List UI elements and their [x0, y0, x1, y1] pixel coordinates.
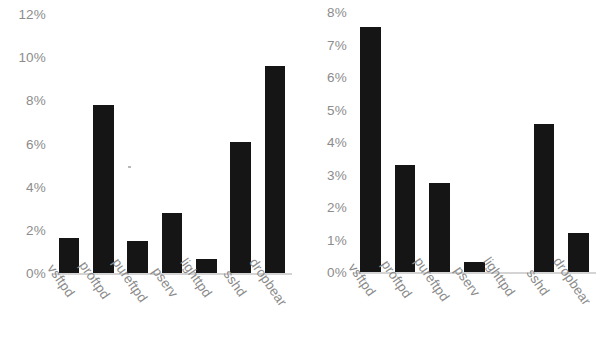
y-tick-label: 7% — [327, 37, 347, 52]
y-axis-right: 0%1%2%3%4%5%6%7%8% — [303, 0, 347, 349]
x-tick-slot: proftpd — [86, 277, 120, 349]
x-axis-left: vsftpdproftpdpureftpdpservlighttpdsshddr… — [52, 277, 292, 349]
x-tick-slot: pureftpd — [121, 277, 155, 349]
x-axis-right: vsftpdproftpdpureftpdpservlighttpdsshddr… — [353, 276, 596, 349]
scan-artifact-speck — [128, 166, 131, 168]
x-tick-slot: pureftpd — [422, 276, 457, 349]
bar — [534, 124, 555, 272]
y-axis-left: 0%2%4%6%8%10%12% — [0, 0, 46, 349]
bar — [265, 66, 286, 273]
x-tick-slot: sshd — [223, 277, 257, 349]
x-tick-slot: lighttpd — [492, 276, 527, 349]
bar-slot — [155, 14, 189, 273]
x-tick-slot: vsftpd — [52, 277, 86, 349]
x-tick-slot: sshd — [527, 276, 562, 349]
x-tick-slot: dropbear — [561, 276, 596, 349]
bar-slot — [353, 12, 388, 272]
y-tick-label: 8% — [327, 5, 347, 20]
bar-slot — [561, 12, 596, 272]
x-tick-slot: lighttpd — [189, 277, 223, 349]
bar-slot — [388, 12, 423, 272]
x-tick-slot: proftpd — [388, 276, 423, 349]
plot-area-left — [52, 14, 292, 275]
bar-chart-right: 0%1%2%3%4%5%6%7%8% vsftpdproftpdpureftpd… — [303, 0, 606, 349]
bar — [93, 105, 114, 273]
bar-slot — [527, 12, 562, 272]
bar-series-right — [353, 12, 596, 272]
bar-slot — [492, 12, 527, 272]
y-tick-label: 6% — [26, 136, 46, 151]
bar-series-left — [52, 14, 292, 273]
bar-slot — [258, 14, 292, 273]
bar-chart-left: 0%2%4%6%8%10%12% vsftpdproftpdpureftpdps… — [0, 0, 303, 349]
bar-slot — [52, 14, 86, 273]
y-tick-label: 0% — [327, 265, 347, 280]
bar — [395, 165, 416, 272]
bar-slot — [121, 14, 155, 273]
y-tick-label: 12% — [18, 7, 46, 22]
y-tick-label: 10% — [18, 50, 46, 65]
bar-slot — [86, 14, 120, 273]
y-tick-label: 8% — [26, 93, 46, 108]
bar — [360, 27, 381, 272]
x-tick-slot: pserv — [155, 277, 189, 349]
y-tick-label: 5% — [327, 102, 347, 117]
x-tick-slot: vsftpd — [353, 276, 388, 349]
bar-slot — [223, 14, 257, 273]
y-tick-label: 2% — [26, 222, 46, 237]
x-tick-slot: dropbear — [258, 277, 292, 349]
bar-slot — [457, 12, 492, 272]
bar — [230, 142, 251, 273]
y-tick-label: 1% — [327, 232, 347, 247]
bar-slot — [189, 14, 223, 273]
y-tick-label: 2% — [327, 200, 347, 215]
figure-two-bar-charts: 0%2%4%6%8%10%12% vsftpdproftpdpureftpdps… — [0, 0, 606, 349]
y-tick-label: 3% — [327, 167, 347, 182]
y-tick-label: 6% — [327, 70, 347, 85]
bar-slot — [422, 12, 457, 272]
bar — [429, 183, 450, 272]
plot-area-right — [353, 12, 596, 274]
y-tick-label: 0% — [26, 266, 46, 281]
y-tick-label: 4% — [327, 135, 347, 150]
y-tick-label: 4% — [26, 179, 46, 194]
x-tick-slot: pserv — [457, 276, 492, 349]
